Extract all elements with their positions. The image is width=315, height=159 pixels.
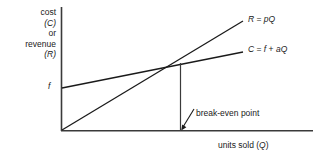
x-axis-label-text: units sold (	[218, 140, 259, 150]
cost-label-quantity: Q	[281, 44, 288, 54]
revenue-label-quantity: Q	[269, 14, 276, 24]
breakeven-arrow-shaft	[183, 109, 194, 127]
y-axis-label-line-3: or	[0, 28, 56, 39]
revenue-line-label: R = pQ	[248, 14, 275, 25]
y-axis-label-line-1: cost	[0, 7, 56, 18]
cost-label-equals: =	[254, 44, 264, 54]
x-axis-label: units sold (Q)	[218, 140, 269, 151]
y-axis-tick-label-f: f	[48, 81, 50, 92]
revenue-label-equals: =	[254, 14, 264, 24]
y-axis-label: cost (C) or revenue (R)	[0, 7, 56, 60]
y-axis-label-line-4: revenue	[0, 39, 56, 50]
x-axis-label-close: )	[266, 140, 269, 150]
cost-line-label: C = f + aQ	[248, 44, 287, 55]
x-axis-label-variable: Q	[259, 140, 266, 150]
cost-label-plus: +	[266, 44, 276, 54]
break-even-point-label: break-even point	[196, 108, 259, 119]
cost-line	[62, 52, 243, 88]
y-axis-label-line-5: (R)	[0, 49, 56, 60]
break-even-chart: cost (C) or revenue (R) f R = pQ C = f +…	[0, 0, 315, 159]
y-axis-label-line-2: (C)	[0, 18, 56, 29]
